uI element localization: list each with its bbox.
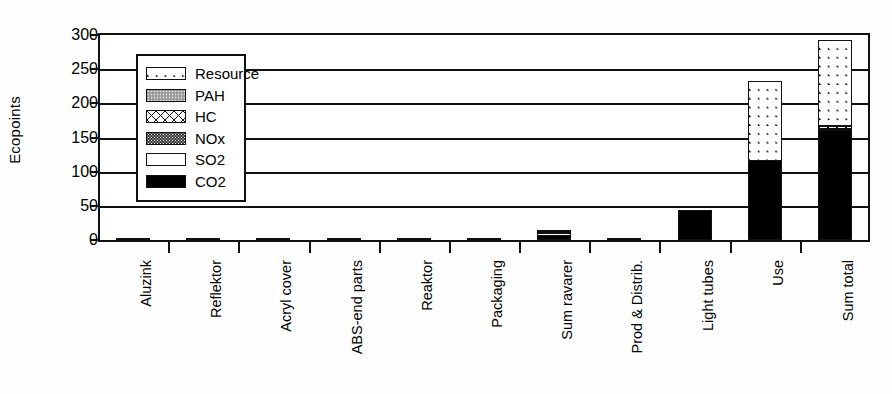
legend-label: CO2 <box>195 174 226 189</box>
bar-segment <box>327 238 361 240</box>
bar-group[interactable] <box>678 35 712 240</box>
x-tick-mark <box>589 242 591 253</box>
stacked-bar[interactable] <box>748 81 782 240</box>
stacked-bar[interactable] <box>678 210 712 240</box>
x-tick-mark <box>519 242 521 253</box>
y-tick-mark <box>90 205 98 207</box>
legend-item[interactable]: HC <box>146 106 235 128</box>
y-tick-label: 200 <box>36 95 98 111</box>
stacked-bar[interactable] <box>327 238 361 240</box>
x-axis-labels: AluzinkReflektorAcryl coverABS-end parts… <box>98 256 870 394</box>
y-tick-mark <box>90 68 98 70</box>
x-tick-mark <box>730 242 732 253</box>
x-tick-mark <box>309 242 311 253</box>
y-tick-label: 50 <box>36 198 98 214</box>
x-axis-ticks <box>98 242 870 253</box>
bar-segment <box>748 81 782 160</box>
x-tick-label: Reflektor <box>209 260 224 318</box>
legend-label: NOx <box>195 131 225 146</box>
legend-item[interactable]: CO2 <box>146 171 235 193</box>
x-tick-label: Acryl cover <box>279 260 294 332</box>
legend-swatch-icon <box>146 110 186 123</box>
y-tick-mark <box>90 137 98 139</box>
y-tick-label: 150 <box>36 130 98 146</box>
x-tick-label: Reaktor <box>420 260 435 311</box>
x-tick-label: ABS-end parts <box>350 260 365 354</box>
bar-group[interactable] <box>467 35 501 240</box>
y-tick-label: 300 <box>36 27 98 43</box>
bar-group[interactable] <box>818 35 852 240</box>
bar-group[interactable] <box>256 35 290 240</box>
y-tick-mark <box>90 171 98 173</box>
bar-group[interactable] <box>397 35 431 240</box>
legend-label: Resource <box>195 66 259 81</box>
bar-segment <box>607 238 641 240</box>
x-tick-mark <box>379 242 381 253</box>
x-tick-label: Sum ravarer <box>560 260 575 340</box>
x-tick-mark <box>238 242 240 253</box>
x-tick-label: Use <box>771 260 786 286</box>
bar-group[interactable] <box>327 35 361 240</box>
legend-item[interactable]: SO2 <box>146 149 235 171</box>
bar-segment <box>818 40 852 125</box>
x-tick-mark <box>449 242 451 253</box>
y-tick-mark <box>90 102 98 104</box>
legend-item[interactable]: NOx <box>146 128 235 150</box>
stacked-bar[interactable] <box>186 238 220 240</box>
bar-group[interactable] <box>537 35 571 240</box>
stacked-bar[interactable] <box>397 238 431 240</box>
y-axis: 050100150200250300 <box>0 0 98 260</box>
legend-label: HC <box>195 109 217 124</box>
legend-swatch-icon <box>146 153 186 166</box>
y-tick-label: 100 <box>36 164 98 180</box>
legend-swatch-icon <box>146 175 186 188</box>
bar-segment <box>467 238 501 240</box>
stacked-bar[interactable] <box>537 230 571 240</box>
x-tick-label: Light tubes <box>701 260 716 331</box>
bar-segment <box>678 210 712 240</box>
bar-segment <box>748 160 782 240</box>
y-tick-mark <box>90 239 98 241</box>
stacked-bar[interactable] <box>607 238 641 240</box>
x-tick-label: Sum total <box>841 260 856 321</box>
y-tick-label: 0 <box>36 232 98 248</box>
legend-label: PAH <box>195 88 225 103</box>
bar-segment <box>397 238 431 240</box>
legend-item[interactable]: Resource <box>146 63 235 85</box>
bar-segment <box>537 235 571 240</box>
x-tick-label: Aluzink <box>139 260 154 307</box>
bar-segment <box>116 238 150 240</box>
x-tick-mark <box>800 242 802 253</box>
x-tick-label: Packaging <box>490 260 505 328</box>
bar-group[interactable] <box>607 35 641 240</box>
y-tick-label: 250 <box>36 61 98 77</box>
stacked-bar[interactable] <box>467 238 501 240</box>
stacked-bar[interactable] <box>256 238 290 240</box>
bar-segment <box>818 130 852 240</box>
legend-swatch-icon <box>146 132 186 145</box>
x-tick-mark <box>168 242 170 253</box>
legend-item[interactable]: PAH <box>146 85 235 107</box>
x-tick-mark <box>659 242 661 253</box>
y-tick-mark <box>90 34 98 36</box>
legend-label: SO2 <box>195 152 225 167</box>
legend-swatch-icon <box>146 67 186 80</box>
bar-segment <box>256 238 290 240</box>
bar-group[interactable] <box>748 35 782 240</box>
stacked-bar[interactable] <box>818 40 852 240</box>
legend-swatch-icon <box>146 89 186 102</box>
chart-legend: ResourcePAHHCNOxSO2CO2 <box>136 54 246 202</box>
bar-segment <box>186 238 220 240</box>
stacked-bar[interactable] <box>116 238 150 240</box>
chart-figure: Ecopoints 050100150200250300 AluzinkRefl… <box>0 0 892 394</box>
x-tick-label: Prod & Distrib. <box>630 260 645 353</box>
